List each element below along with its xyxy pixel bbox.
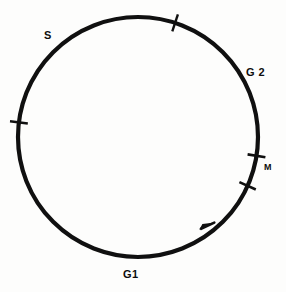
phase-label-s: S — [44, 30, 52, 41]
tick-g2-m-boundary — [248, 154, 266, 157]
phase-label-g1: G1 — [123, 269, 138, 280]
phase-label-g2: G 2 — [246, 67, 265, 78]
cell-cycle-figure: S G 2 M G1 — [0, 0, 286, 292]
phase-label-m: M — [264, 163, 272, 172]
cell-cycle-diagram — [0, 0, 286, 292]
cell-cycle-ring — [18, 17, 258, 257]
tick-g1-s-boundary — [10, 121, 28, 123]
